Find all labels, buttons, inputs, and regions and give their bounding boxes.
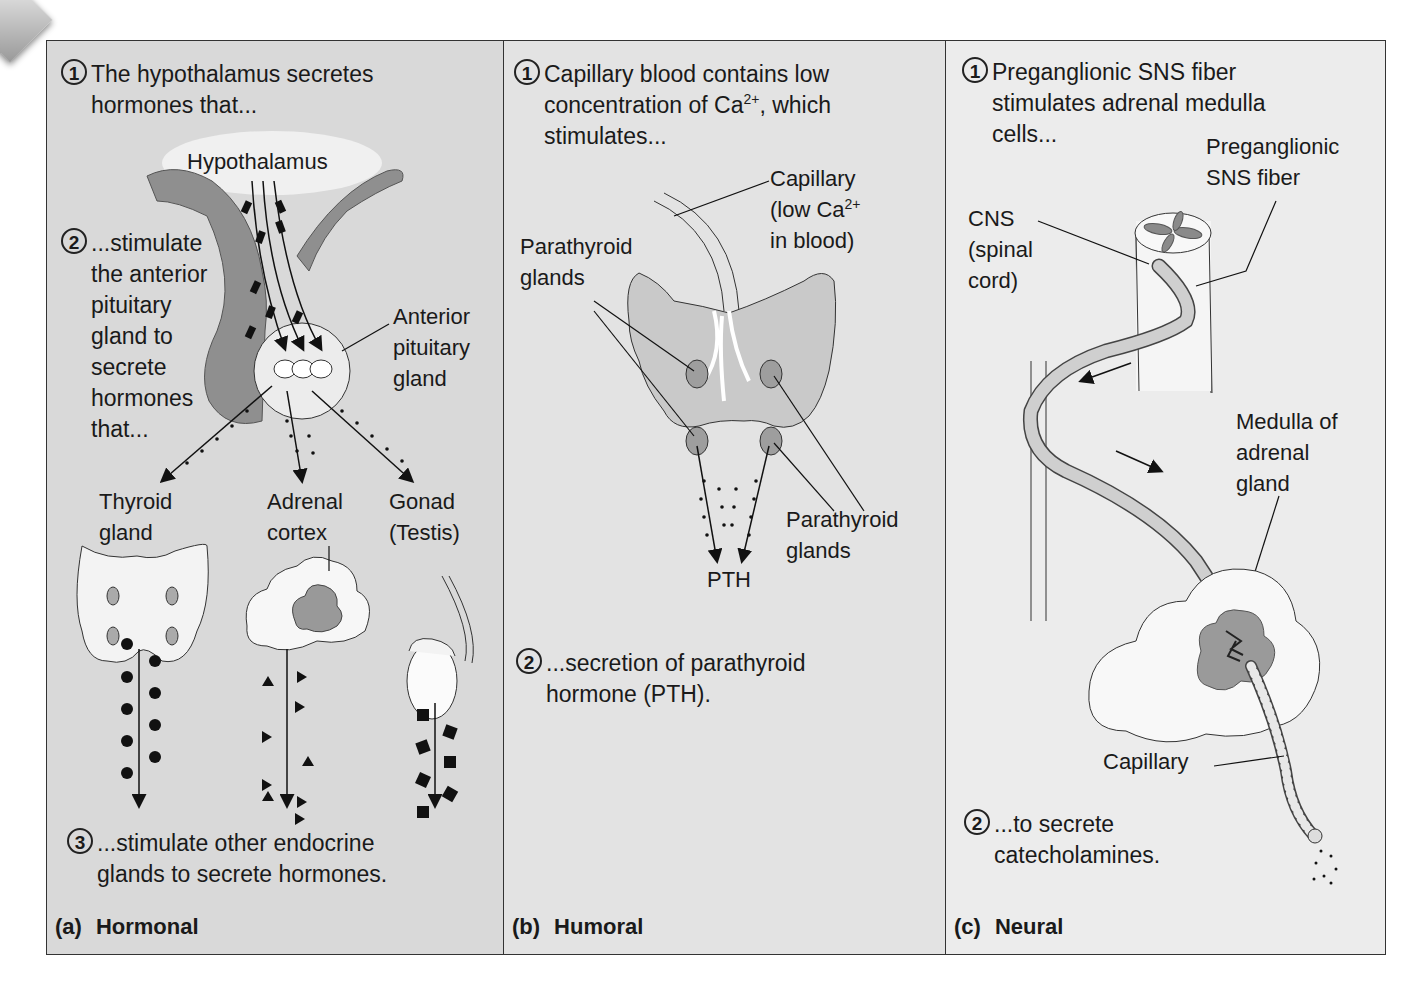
- label-preganglionic-fiber: Preganglionic SNS fiber: [1206, 131, 1339, 193]
- hormonal-step2: 2...stimulate the anterior pituitary gla…: [61, 228, 207, 445]
- label-capillary: Capillary(low Ca2+in blood): [770, 163, 861, 256]
- caption-letter: (a): [55, 914, 82, 939]
- parathyroid-bottom-right: [760, 427, 782, 455]
- caption-title: Humoral: [554, 914, 643, 939]
- panel-neural: 1Preganglionic SNS fiber stimulates adre…: [946, 41, 1385, 954]
- thyroid-shape: [628, 273, 836, 427]
- caption-title: Hormonal: [96, 914, 199, 939]
- hormonal-step2-text: ...stimulate the anterior pituitary glan…: [91, 228, 207, 445]
- label-pth: PTH: [707, 564, 751, 595]
- humoral-illustration: [504, 41, 946, 956]
- step-number-badge: 3: [67, 828, 93, 854]
- step-number-badge: 1: [61, 59, 87, 85]
- parathyroid-bottom-left: [686, 427, 708, 455]
- label-parathyroid-top: Parathyroid glands: [520, 231, 633, 293]
- label-cns-spinal-cord: CNS (spinal cord): [968, 203, 1033, 296]
- step-number-badge: 1: [962, 57, 988, 83]
- thyroid-shape: [77, 544, 208, 662]
- caption-title: Neural: [995, 914, 1063, 939]
- step-number-badge: 2: [516, 648, 542, 674]
- hormonal-step3: 3...stimulate other endocrine glands to …: [67, 828, 387, 890]
- hormonal-step3-text: ...stimulate other endocrine glands to s…: [97, 828, 387, 890]
- label-gonad-testis: Gonad (Testis): [389, 486, 460, 548]
- step-number-badge: 1: [514, 59, 540, 85]
- caption-humoral: (b)Humoral: [512, 914, 643, 940]
- label-thyroid-gland: Thyroid gland: [99, 486, 172, 548]
- caption-neural: (c)Neural: [954, 914, 1063, 940]
- label-hypothalamus: Hypothalamus: [187, 146, 328, 177]
- neural-step2-text: ...to secrete catecholamines.: [994, 809, 1160, 871]
- parathyroid-top-left: [686, 360, 708, 388]
- label-capillary: Capillary: [1103, 746, 1189, 777]
- panel-humoral: 1Capillary blood contains lowconcentrati…: [504, 41, 946, 954]
- caption-letter: (c): [954, 914, 981, 939]
- label-adrenal-cortex: Adrenal cortex: [267, 486, 343, 548]
- step-number-badge: 2: [61, 228, 87, 254]
- step-number-badge: 2: [964, 809, 990, 835]
- panel-hormonal: 1The hypothalamus secretes hormones that…: [47, 41, 504, 954]
- humoral-step1-text: Capillary blood contains lowconcentratio…: [544, 59, 831, 152]
- hormonal-step1-text: The hypothalamus secretes hormones that.…: [91, 59, 374, 121]
- caption-letter: (b): [512, 914, 540, 939]
- label-adrenal-medulla: Medulla of adrenal gland: [1236, 406, 1338, 499]
- page-corner-decoration: [0, 0, 52, 62]
- humoral-step1: 1Capillary blood contains lowconcentrati…: [514, 59, 831, 152]
- label-anterior-pituitary: Anterior pituitary gland: [393, 301, 470, 394]
- humoral-step2-text: ...secretion of parathyroid hormone (PTH…: [546, 648, 806, 710]
- figure-frame: 1The hypothalamus secretes hormones that…: [46, 40, 1386, 955]
- humoral-step2: 2...secretion of parathyroid hormone (PT…: [516, 648, 806, 710]
- hormonal-step1: 1The hypothalamus secretes hormones that…: [61, 59, 374, 121]
- label-parathyroid-bottom: Parathyroid glands: [786, 504, 899, 566]
- neural-step2: 2...to secrete catecholamines.: [964, 809, 1160, 871]
- caption-hormonal: (a)Hormonal: [55, 914, 199, 940]
